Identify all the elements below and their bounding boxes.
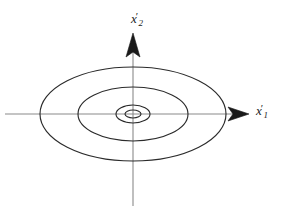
x1-prime-axis-label: x′1 (256, 103, 268, 120)
phase-portrait-figure: x′2 x′1 (0, 0, 287, 220)
x2-prime-axis-label-subscript: 2 (138, 18, 143, 28)
phase-portrait-canvas (0, 0, 287, 220)
x1-prime-axis-label-subscript: 1 (263, 110, 268, 120)
x2-prime-axis-label: x′2 (131, 11, 143, 28)
